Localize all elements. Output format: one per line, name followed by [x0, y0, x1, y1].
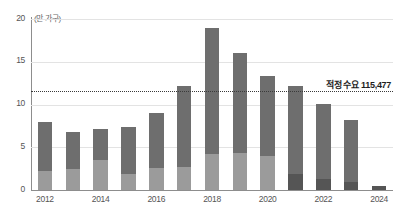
bar-2012[interactable]: [38, 122, 53, 190]
bar-segment-upper-2022: [316, 104, 331, 179]
bar-series: [31, 19, 393, 190]
bar-segment-lower-2017: [177, 167, 192, 190]
bar-segment-upper-2023: [344, 120, 359, 182]
bar-segment-upper-2017: [177, 86, 192, 167]
plot-area: 적정 수요 115,477: [31, 19, 393, 190]
bar-segment-lower-2012: [38, 171, 53, 190]
bar-segment-lower-2019: [233, 153, 248, 190]
bar-2023[interactable]: [344, 120, 359, 190]
bar-2015[interactable]: [121, 127, 136, 190]
bar-segment-lower-2021: [288, 174, 303, 190]
bar-segment-upper-2021: [288, 86, 303, 174]
y-axis-tick-labels: 20 15 10 5 0: [0, 0, 31, 221]
bar-segment-upper-2013: [66, 132, 81, 169]
bar-segment-upper-2014: [93, 129, 108, 160]
bar-segment-upper-2016: [149, 113, 164, 168]
y-tick-10: 10: [0, 99, 25, 108]
x-tick-2022: 2022: [315, 194, 333, 204]
bar-segment-lower-2015: [121, 174, 136, 190]
bar-2013[interactable]: [66, 132, 81, 190]
x-tick-2018: 2018: [203, 194, 221, 204]
x-tick-2012: 2012: [36, 194, 54, 204]
chart-container: (만 가구) 20 15 10 5 0 적정 수요 115,477 201220…: [0, 0, 397, 221]
x-axis-line: [31, 190, 393, 191]
bar-2018[interactable]: [205, 28, 220, 190]
bar-2019[interactable]: [233, 53, 248, 190]
bar-segment-lower-2018: [205, 154, 220, 190]
y-tick-5: 5: [0, 142, 25, 151]
bar-2024[interactable]: [372, 186, 387, 190]
bar-segment-lower-2020: [260, 156, 275, 190]
x-tick-2024: 2024: [370, 194, 388, 204]
bar-2017[interactable]: [177, 86, 192, 190]
bar-segment-lower-2013: [66, 169, 81, 190]
bar-2016[interactable]: [149, 113, 164, 190]
bar-2014[interactable]: [93, 129, 108, 190]
bar-segment-upper-2012: [38, 122, 53, 172]
bar-segment-lower-2016: [149, 168, 164, 190]
bar-segment-lower-2022: [316, 179, 331, 190]
bar-segment-lower-2014: [93, 160, 108, 190]
threshold-line: [31, 91, 393, 92]
bar-segment-upper-2020: [260, 76, 275, 156]
bar-segment-lower-2023: [344, 182, 359, 190]
source-caption: [6, 211, 306, 220]
bar-2022[interactable]: [316, 104, 331, 190]
bar-2021[interactable]: [288, 86, 303, 190]
y-tick-20: 20: [0, 14, 25, 23]
threshold-label: 적정 수요 115,477: [326, 78, 391, 91]
bar-segment-upper-2015: [121, 127, 136, 174]
bar-segment-upper-2019: [233, 53, 248, 153]
bar-segment-lower-2024: [372, 186, 387, 190]
x-tick-2016: 2016: [147, 194, 165, 204]
bar-2020[interactable]: [260, 76, 275, 190]
x-tick-2020: 2020: [259, 194, 277, 204]
x-axis-tick-labels: 2012201420162018202020222024: [31, 192, 393, 208]
x-tick-2014: 2014: [92, 194, 110, 204]
y-tick-0: 0: [0, 185, 25, 194]
y-tick-15: 15: [0, 56, 25, 65]
